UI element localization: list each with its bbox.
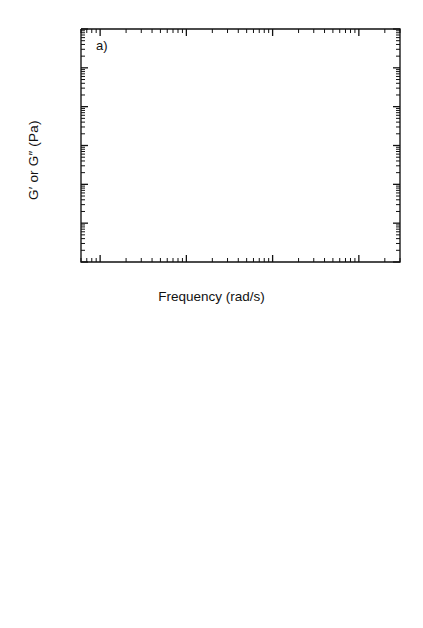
panel-a-xlabel: Frequency (rad/s) (0, 289, 423, 304)
panel-a: a) G′ or G″ (Pa) Frequency (rad/s) (0, 0, 423, 314)
axis-frame (81, 29, 400, 262)
panel-a-tag: a) (96, 38, 108, 53)
plot-frame (81, 29, 400, 262)
panel-b: b) G′ or G″ (Pa) Frequency (rad/s) (0, 314, 423, 628)
panel-a-plot (0, 0, 423, 314)
panel-a-ylabel: G′ or G″ (Pa) (26, 120, 41, 200)
figure-container: a) G′ or G″ (Pa) Frequency (rad/s) b) G′… (0, 0, 423, 628)
panel-b-plot (0, 314, 423, 628)
